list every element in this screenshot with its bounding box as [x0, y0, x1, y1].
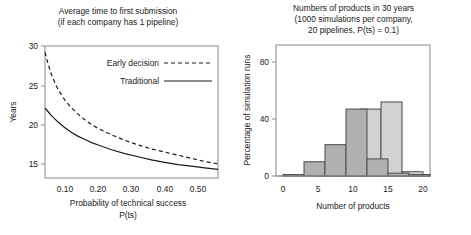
figure-root: Average time to first submission (if eac…	[0, 0, 471, 235]
x-tick-label: 0.40	[157, 184, 174, 194]
chart-right-svg: 80 40 0 Percentage of simulation runs 05…	[236, 0, 471, 235]
chart-left-y-axis-label: Years	[8, 101, 18, 122]
y-tick-label: 0	[264, 171, 269, 181]
bar	[346, 109, 367, 176]
series-bars-dark	[283, 109, 430, 176]
x-tick-label: 0.50	[190, 184, 207, 194]
x-tick-label: 5	[316, 184, 321, 194]
y-tick-label: 25	[29, 81, 39, 91]
series-line-traditional	[45, 108, 218, 169]
y-tick-label: 40	[260, 114, 270, 124]
y-tick-label: 80	[260, 57, 270, 67]
x-tick-label: 0.30	[123, 184, 140, 194]
x-tick-label: 0.10	[57, 184, 74, 194]
chart-left-x-axis: 0.10 0.20 0.30 0.40 0.50	[57, 184, 207, 194]
bar	[367, 159, 388, 176]
chart-left-x-axis-label-line2: P(ts)	[119, 210, 137, 220]
bar	[325, 145, 346, 176]
chart-right-panel: Numbers of products in 30 years (1000 si…	[236, 0, 471, 235]
chart-left-legend: Early decision Traditional	[107, 58, 212, 86]
legend-label-traditional: Traditional	[120, 76, 159, 86]
chart-left-y-axis: 30 25 20 15	[29, 41, 45, 169]
legend-label-early-decision: Early decision	[107, 58, 159, 68]
y-tick-label: 30	[29, 41, 39, 51]
chart-left-panel: Average time to first submission (if eac…	[0, 0, 236, 235]
x-tick-label: 20	[418, 184, 428, 194]
chart-right-x-axis-label: Number of products	[316, 201, 390, 211]
x-tick-label: 10	[348, 184, 358, 194]
x-tick-label: 0	[281, 184, 286, 194]
chart-left-x-axis-label: Probability of technical success	[70, 198, 186, 208]
bar	[304, 162, 325, 176]
x-tick-label: 0.20	[90, 184, 107, 194]
chart-right-y-axis-label: Percentage of simulation runs	[242, 55, 252, 166]
chart-left-svg: 30 25 20 15 Years 0.10 0.20 0.30 0.40 0.…	[0, 0, 236, 235]
series-line-early-decision	[45, 52, 218, 164]
chart-right-x-axis: 05101520	[281, 184, 428, 194]
y-tick-label: 20	[29, 120, 39, 130]
chart-right-y-axis: 80 40 0	[260, 57, 276, 181]
y-tick-label: 15	[29, 159, 39, 169]
x-tick-label: 15	[383, 184, 393, 194]
